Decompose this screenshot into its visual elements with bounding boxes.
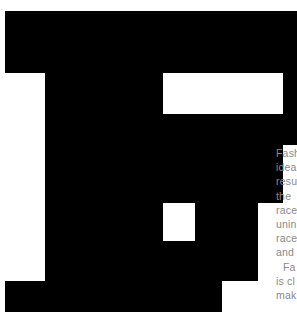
body-line: idea: [276, 160, 297, 174]
dropcap-bottom-bar: [5, 281, 222, 312]
dropcap-middle-arm-lower: [195, 203, 258, 241]
body-line: unin: [276, 217, 297, 231]
page-canvas: Fash idea resu the race unin race and Fa…: [0, 0, 297, 312]
body-line: race: [276, 231, 297, 245]
dropcap-top-bar: [5, 11, 297, 73]
body-line: is cl: [276, 274, 297, 288]
body-line: the: [276, 189, 297, 203]
body-text-column: Fash idea resu the race unin race and Fa…: [276, 146, 297, 312]
body-line: resu: [276, 174, 297, 188]
dropcap-lower-block: [163, 241, 258, 281]
body-line: mak: [276, 288, 297, 302]
dropcap-vertical-stem: [45, 73, 163, 281]
body-line: race: [276, 203, 297, 217]
dropcap-right-edge-block: [283, 73, 297, 145]
body-line: Fash: [276, 146, 297, 160]
body-line: Fa: [276, 260, 297, 274]
body-line: and: [276, 245, 297, 259]
dropcap-letter-f: [0, 0, 297, 312]
dropcap-middle-arm: [163, 114, 283, 203]
